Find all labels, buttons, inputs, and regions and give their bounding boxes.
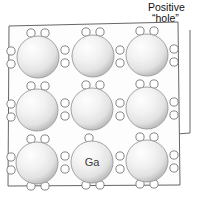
figure-root: Positive “hole” Ga xyxy=(0,0,202,198)
electron-circle xyxy=(150,27,158,35)
electron-circle xyxy=(170,58,178,66)
electron-circle xyxy=(82,28,90,36)
electron-circle xyxy=(136,133,144,141)
electron-circle xyxy=(61,112,69,120)
electron-circle xyxy=(170,151,178,159)
electron-circle xyxy=(116,99,124,107)
atom-r3c2: Ga xyxy=(71,141,113,183)
electron-circle xyxy=(116,46,124,54)
electron-circle xyxy=(27,29,35,37)
atom-r3c3 xyxy=(126,140,168,182)
atom-r1c2 xyxy=(72,35,114,77)
lattice-diagram-svg: Positive “hole” Ga xyxy=(0,0,202,198)
electron-circle xyxy=(61,46,69,54)
atom-r1c3 xyxy=(126,34,168,76)
electron-circle xyxy=(7,100,15,108)
electron-circle xyxy=(150,133,158,141)
atom-sphere xyxy=(126,140,168,182)
atom-r1c1 xyxy=(17,36,59,78)
electron-circle xyxy=(170,164,178,172)
atom-r2c3 xyxy=(126,87,168,129)
electron-circle xyxy=(116,112,124,120)
electron-circle xyxy=(96,81,104,89)
electron-circle xyxy=(170,98,178,106)
atom-sphere xyxy=(16,89,58,131)
atom-sphere xyxy=(71,88,113,130)
electron-circle xyxy=(96,28,104,36)
atom-sphere xyxy=(72,35,114,77)
atom-label-ga: Ga xyxy=(85,156,101,168)
electron-circle xyxy=(136,27,144,35)
atom-sphere xyxy=(126,87,168,129)
atom-sphere xyxy=(17,36,59,78)
electron-circle xyxy=(136,80,144,88)
electron-circle xyxy=(7,153,15,161)
atom-sphere xyxy=(16,142,58,184)
electron-circle xyxy=(61,165,69,173)
electron-circle xyxy=(61,152,69,160)
electron-circle xyxy=(170,111,178,119)
electron-circle xyxy=(7,113,15,121)
electron-circle xyxy=(170,45,178,53)
atom-r3c1 xyxy=(16,142,58,184)
atom-sphere xyxy=(126,34,168,76)
electron-circle xyxy=(7,47,15,55)
electron-circle xyxy=(41,29,49,37)
electron-circle xyxy=(61,99,69,107)
electron-circle xyxy=(61,59,69,67)
electron-circle xyxy=(150,80,158,88)
electron-circle xyxy=(116,165,124,173)
electron-circle xyxy=(7,166,15,174)
electron-circle xyxy=(41,82,49,90)
electron-circle xyxy=(116,152,124,160)
atom-r2c2 xyxy=(71,88,113,130)
atom-spheres-layer: Ga xyxy=(16,34,168,184)
electron-circle xyxy=(116,59,124,67)
atom-r2c1 xyxy=(16,89,58,131)
electron-circle xyxy=(41,135,49,143)
electron-circle xyxy=(7,60,15,68)
